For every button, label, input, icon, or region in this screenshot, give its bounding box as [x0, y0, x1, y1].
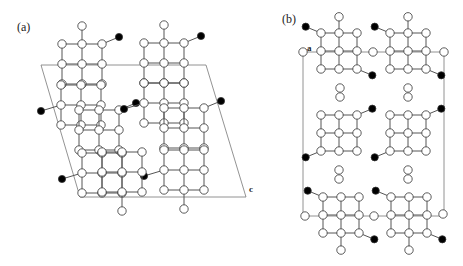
crystal-structure-diagram: [0, 0, 463, 266]
